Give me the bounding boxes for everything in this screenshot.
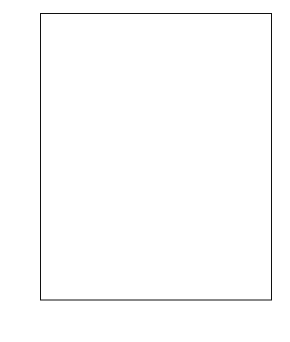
plot-frame <box>41 14 272 301</box>
plot-canvas <box>0 0 290 342</box>
light-curve-figure <box>0 0 290 342</box>
